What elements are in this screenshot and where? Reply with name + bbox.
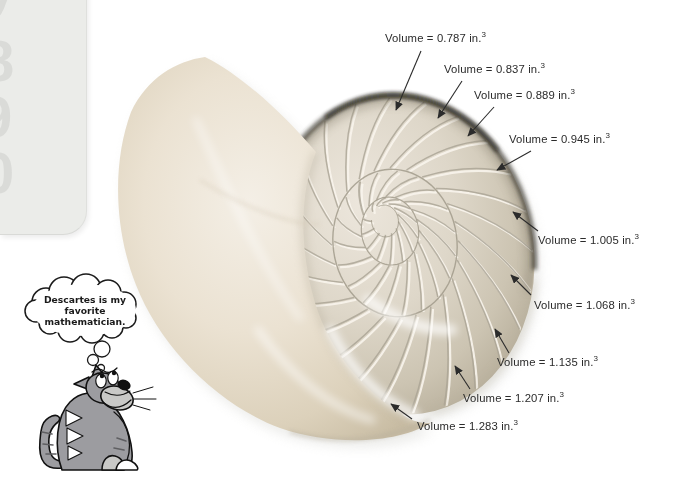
- cat-back-triangles: [66, 410, 83, 460]
- bubble-text-line: favorite: [65, 305, 106, 316]
- bubble-trail-puff: [94, 341, 110, 357]
- bubble-text-line: Descartes is my: [44, 294, 126, 305]
- nautilus-shell-figure: Descartes is myfavoritemathematician.: [0, 0, 673, 486]
- bubble-trail-puff: [88, 355, 99, 366]
- bubble-text-line: mathematician.: [44, 316, 125, 327]
- cat-illustration: [40, 365, 156, 470]
- thought-bubble: Descartes is myfavoritemathematician.: [25, 274, 136, 372]
- textbook-figure: y890: [0, 0, 673, 486]
- cat-whiskers: [133, 387, 156, 410]
